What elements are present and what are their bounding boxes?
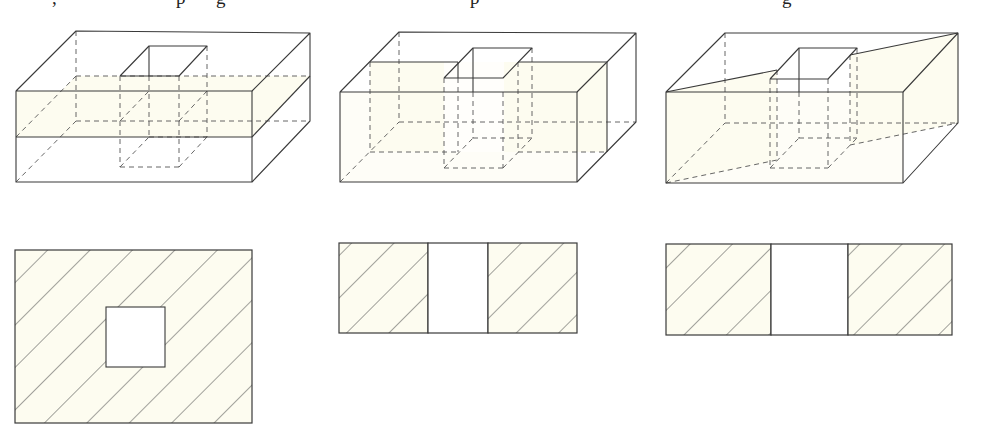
solid-2-frontal-cut (340, 32, 636, 182)
diagram-canvas (0, 0, 982, 428)
section-3-oblique (666, 244, 952, 335)
gap (771, 244, 848, 335)
hatched-section-left (666, 244, 771, 335)
square-hole (106, 307, 165, 367)
gap (428, 243, 488, 333)
section-1-horizontal (15, 250, 252, 423)
hatched-section-right (488, 243, 577, 333)
section-2-frontal (339, 243, 577, 333)
hatched-section-right (848, 244, 952, 335)
front-band (16, 91, 252, 137)
solid-1-horizontal-cut (16, 31, 310, 182)
hatched-section-left (339, 243, 428, 333)
solid-3-oblique-cut (666, 33, 958, 183)
